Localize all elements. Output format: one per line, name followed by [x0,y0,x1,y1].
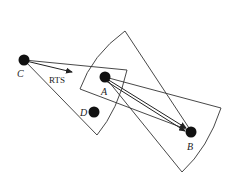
label-c: C [17,68,24,79]
sector-c [24,60,127,135]
label-d: D [79,107,88,118]
label-b: B [187,141,193,152]
node-a [100,72,111,83]
node-b [186,127,197,138]
rts-label: RTS [49,75,65,85]
label-a: A [100,86,108,97]
arrow-a-to-b-2 [106,81,185,131]
diagram-canvas: C A D B RTS [0,0,236,185]
node-c [19,55,30,66]
node-d [89,107,100,118]
